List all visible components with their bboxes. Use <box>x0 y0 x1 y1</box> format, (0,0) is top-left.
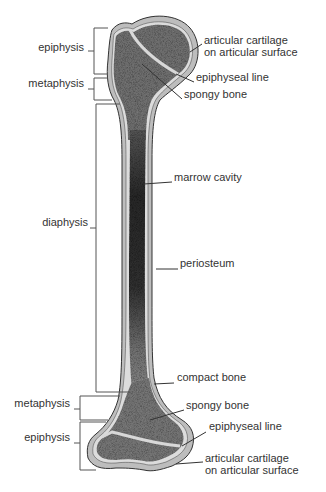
label-line: articular cartilage <box>205 452 299 464</box>
label-epiphysis-top: epiphysis <box>4 41 84 53</box>
label-line: spongy bone <box>184 88 247 100</box>
label-line: articular cartilage <box>204 34 298 46</box>
label-articular-cartilage-top: articular cartilageon articular surface <box>204 34 298 58</box>
label-metaphysis-bottom: metaphysis <box>4 397 70 409</box>
label-line: compact bone <box>177 371 246 383</box>
label-line: on articular surface <box>204 46 298 58</box>
label-line: spongy bone <box>186 399 249 411</box>
label-line: on articular surface <box>205 464 299 476</box>
label-line: epiphyseal line <box>209 420 282 432</box>
label-marrow-cavity: marrow cavity <box>174 171 242 183</box>
label-epiphyseal-line-bottom: epiphyseal line <box>209 420 282 432</box>
label-epiphysis-bottom: epiphysis <box>4 431 70 443</box>
long-bone-diagram <box>0 0 326 492</box>
label-spongy-bone-bottom: spongy bone <box>186 399 249 411</box>
label-periosteum: periosteum <box>180 257 234 269</box>
label-metaphysis-top: metaphysis <box>4 77 84 89</box>
label-compact-bone: compact bone <box>177 371 246 383</box>
label-line: marrow cavity <box>174 171 242 183</box>
label-line: periosteum <box>180 257 234 269</box>
label-spongy-bone-top: spongy bone <box>184 88 247 100</box>
label-diaphysis: diaphysis <box>4 216 88 228</box>
label-line: epiphyseal line <box>196 71 269 83</box>
label-epiphyseal-line-top: epiphyseal line <box>196 71 269 83</box>
label-articular-cartilage-bottom: articular cartilageon articular surface <box>205 452 299 476</box>
